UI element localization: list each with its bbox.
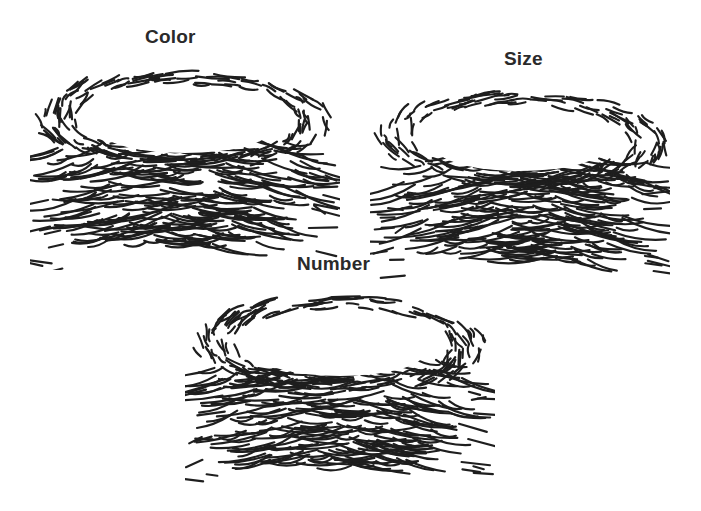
nest-illustration-number [185,290,495,490]
nest-illustration-color [30,65,340,270]
nest-illustration-size [370,85,670,285]
label-color: Color [145,26,196,48]
label-size: Size [504,48,543,70]
